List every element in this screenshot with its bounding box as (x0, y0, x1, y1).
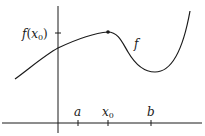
curve-f (15, 11, 190, 79)
point-x0 (106, 30, 110, 34)
label-f-x0: f(x0) (21, 27, 48, 42)
label-a: a (74, 105, 81, 119)
label-x0: x0 (102, 105, 114, 120)
label-curve-f: f (133, 37, 141, 51)
label-b: b (147, 105, 155, 119)
function-graph: f(x0) f a x0 b (0, 0, 205, 136)
